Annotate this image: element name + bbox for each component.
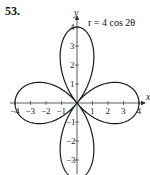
polar-plot: −4−3−2−11234−4−3−2−11234 x y r = 4 cos 2… xyxy=(0,0,150,175)
y-tick-label: 2 xyxy=(70,60,75,70)
equation-label: r = 4 cos 2θ xyxy=(88,17,135,28)
x-tick-label: 3 xyxy=(121,106,126,116)
y-tick-label: 3 xyxy=(70,41,75,51)
x-tick-label: 2 xyxy=(106,106,111,116)
axis-tick-labels: −4−3−2−11234−4−3−2−11234 xyxy=(10,22,142,175)
y-axis-label: y xyxy=(73,7,79,18)
x-tick-label: −3 xyxy=(26,106,36,116)
x-tick-label: 1 xyxy=(90,106,95,116)
y-tick-label: −2 xyxy=(66,136,76,146)
y-tick-label: −3 xyxy=(66,155,76,165)
x-tick-label: −2 xyxy=(41,106,51,116)
x-axis-label: x xyxy=(145,91,150,102)
y-tick-label: 1 xyxy=(70,79,75,89)
